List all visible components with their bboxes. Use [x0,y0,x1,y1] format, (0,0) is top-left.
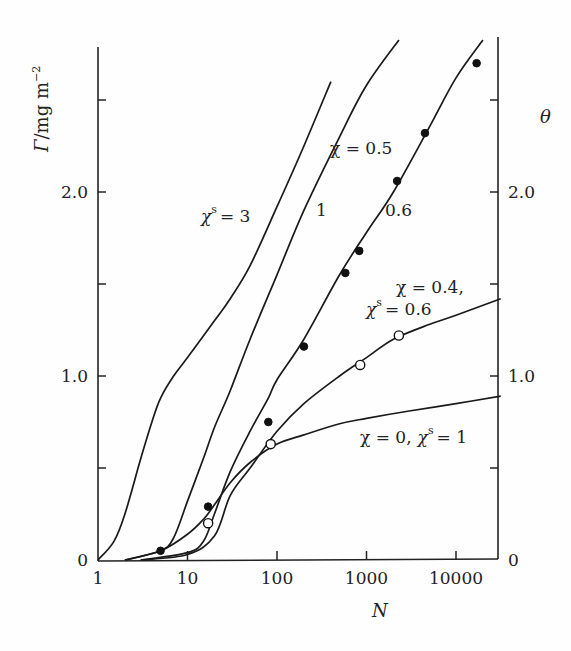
filled-data-point [473,59,481,67]
filled-data-point [355,247,363,255]
y-right-tick-label: 2.0 [508,182,535,202]
annotation-chis-0.6: χs= 0.6 [365,296,432,319]
curve-line [125,40,399,560]
x-tick-label: 1 [93,568,104,588]
annotation-chi-0: χ = 0,χs= 1 [360,424,467,447]
y-right-axis-title: θ [540,106,551,127]
filled-data-point [157,547,165,555]
x-tick-label: 100 [261,568,293,588]
filled-data-point [204,503,212,511]
x-tick-label: 10 [177,568,199,588]
y-left-tick-label: 2.0 [61,182,88,202]
y-right-tick-label: 1.0 [508,366,535,386]
y-left-tick-label: 0 [77,550,88,570]
filled-data-point [265,418,273,426]
x-tick-label: 1000 [345,568,388,588]
y-left-axis-title: Γ/mg m−2 [30,66,52,153]
x-axis-title: N [371,600,389,621]
chart-canvas: 11010010001000001.02.001.02.0 Γ/mg m−2 θ… [0,0,571,651]
y-right-tick-label: 0 [508,550,519,570]
annotation-chis-3: χs= 3 [200,203,250,226]
axes-frame [98,37,498,561]
open-data-point [356,360,365,369]
filled-data-point [393,177,401,185]
open-data-point [204,519,213,528]
annotation-chi-0.4: χ = 0.4, [396,277,464,297]
x-tick-label: 10000 [429,568,483,588]
curve-line [98,82,331,560]
open-data-point [266,439,275,448]
annotation-1: 1 [316,200,327,220]
curve-line [125,396,501,560]
y-left-tick-label: 1.0 [61,366,88,386]
filled-data-point [342,269,350,277]
annotation-0.6: 0.6 [385,200,412,220]
open-data-point [394,331,403,340]
annotation-chi-0.5: χ = 0.5 [330,138,392,158]
filled-data-point [421,129,429,137]
filled-data-point [300,343,308,351]
